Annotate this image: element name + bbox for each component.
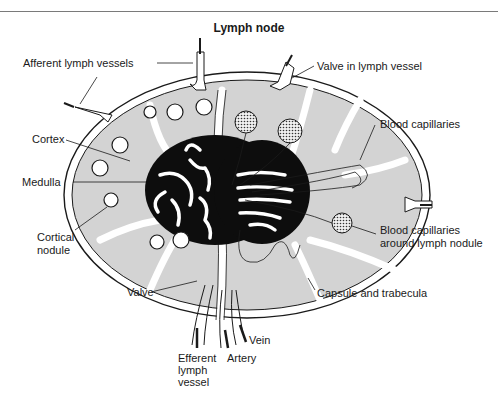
label-vein: Vein [249,334,270,347]
label-valve-in-lymph-vessel: Valve in lymph vessel [317,60,422,73]
label-blood-capillaries: Blood capillaries [380,118,460,131]
label-valve: Valve [127,286,154,299]
label-capillaries-around-nodule-2: around lymph nodule [380,237,483,250]
label-capillaries-around-nodule-1: Blood capillaries [380,224,460,237]
label-afferent-lymph-vessels: Afferent lymph vessels [23,57,133,70]
label-capsule-and-trabecula: Capsule and trabecula [317,287,427,300]
label-artery: Artery [227,352,256,365]
label-cortical-nodule-2: nodule [37,244,70,257]
label-medulla: Medulla [22,176,61,189]
label-efferent-3: vessel [178,376,209,389]
label-cortex: Cortex [32,133,64,146]
label-cortical-nodule-1: Cortical [37,231,74,244]
medulla-region [145,135,310,245]
